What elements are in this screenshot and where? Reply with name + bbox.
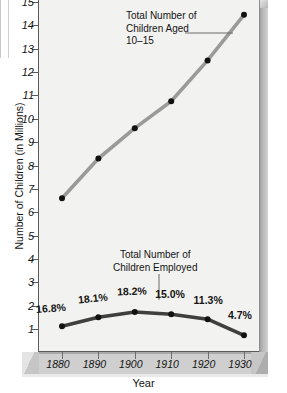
series-layer	[0, 0, 287, 393]
lower-series-annotation: Total Number of Children Employed	[113, 249, 198, 274]
lower-annotation-line-2: Children Employed	[113, 262, 198, 275]
series-line	[62, 312, 244, 335]
percent-label: 11.3%	[194, 294, 223, 306]
percent-label: 18.2%	[117, 284, 147, 297]
data-point-marker	[241, 12, 247, 18]
percent-label: 15.0%	[155, 288, 185, 300]
upper-series-annotation: Total Number of Children Aged 10–15	[126, 10, 197, 48]
upper-annotation-line-2: Children Aged	[126, 23, 197, 36]
upper-annotation-line-3: 10–15	[126, 35, 197, 48]
data-point-marker	[168, 98, 174, 104]
data-point-marker	[168, 311, 174, 317]
lower-annotation-line-1: Total Number of	[113, 249, 198, 262]
data-point-marker	[59, 323, 65, 329]
data-point-marker	[95, 155, 101, 161]
percent-label: 4.7%	[228, 309, 252, 321]
chart-root: 151413121110987654321 188018901900191019…	[0, 0, 287, 393]
data-point-marker	[59, 195, 65, 201]
percent-label: 16.8%	[36, 301, 67, 315]
data-point-marker	[205, 57, 211, 63]
upper-annotation-line-1: Total Number of	[126, 10, 197, 23]
data-point-marker	[132, 125, 138, 131]
data-point-marker	[205, 316, 211, 322]
series-children-employed	[59, 309, 247, 338]
data-point-marker	[241, 332, 247, 338]
data-point-marker	[132, 309, 138, 315]
data-point-marker	[95, 314, 101, 320]
